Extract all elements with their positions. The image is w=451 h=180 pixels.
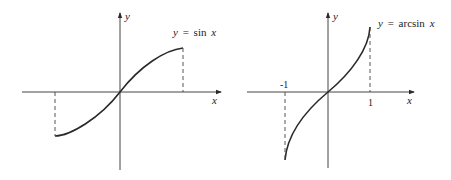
sine-equation-label: y = sin x [172,26,216,38]
left-y-axis-label: y [124,10,130,22]
right-x-axis-label: x [406,94,412,106]
function-graphs-figure: y x y = sin x y x -1 1 y = arcsin x [0,0,451,180]
tick-label-one: 1 [368,97,373,108]
right-y-axis-label: y [332,10,338,22]
left-x-axis-label: x [211,94,217,106]
arcsin-equation-label: y = arcsin x [377,17,435,29]
tick-label-neg-one: -1 [280,79,288,90]
sine-graph: y x y = sin x [22,10,221,170]
arcsin-graph: y x -1 1 y = arcsin x [247,10,435,168]
